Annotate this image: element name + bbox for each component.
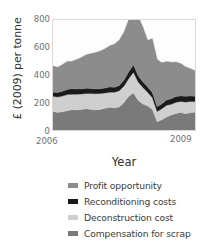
x-axis-tick-2009: 2009 bbox=[170, 134, 192, 144]
y-axis-tick-400: 400 bbox=[26, 71, 50, 79]
y-axis-tick-labels: 0200400600800 bbox=[24, 0, 50, 243]
legend-item-label: Reconditioning costs bbox=[84, 196, 176, 207]
x-axis-label: Year bbox=[52, 155, 196, 169]
y-axis-tick-200: 200 bbox=[26, 99, 50, 107]
legend-item-reconditioning-costs[interactable]: Reconditioning costs bbox=[68, 194, 205, 209]
chart-legend: Profit opportunityReconditioning costsDe… bbox=[68, 178, 205, 242]
legend-item-profit-opportunity[interactable]: Profit opportunity bbox=[68, 178, 205, 193]
legend-swatch-icon bbox=[68, 199, 78, 204]
legend-item-label: Compensation for scrap bbox=[84, 228, 191, 239]
y-axis-tick-600: 600 bbox=[26, 43, 50, 51]
y-axis-label: £ (2009) per tonne bbox=[11, 4, 24, 134]
legend-swatch-icon bbox=[68, 215, 78, 220]
stacked-area-chart-figure: £ (2009) per tonne 0200400600800 2006 20… bbox=[0, 0, 205, 243]
x-axis-tick-2006: 2006 bbox=[36, 136, 58, 146]
legend-item-label: Deconstruction cost bbox=[84, 212, 173, 223]
legend-item-label: Profit opportunity bbox=[84, 180, 162, 191]
legend-swatch-icon bbox=[68, 183, 78, 188]
y-axis-tick-0: 0 bbox=[26, 127, 50, 135]
plot-svg bbox=[53, 20, 195, 130]
legend-item-compensation-for-scrap[interactable]: Compensation for scrap bbox=[68, 226, 205, 241]
legend-item-deconstruction-cost[interactable]: Deconstruction cost bbox=[68, 210, 205, 225]
plot-area bbox=[52, 19, 196, 131]
y-axis-tick-800: 800 bbox=[26, 15, 50, 23]
legend-swatch-icon bbox=[68, 231, 78, 236]
